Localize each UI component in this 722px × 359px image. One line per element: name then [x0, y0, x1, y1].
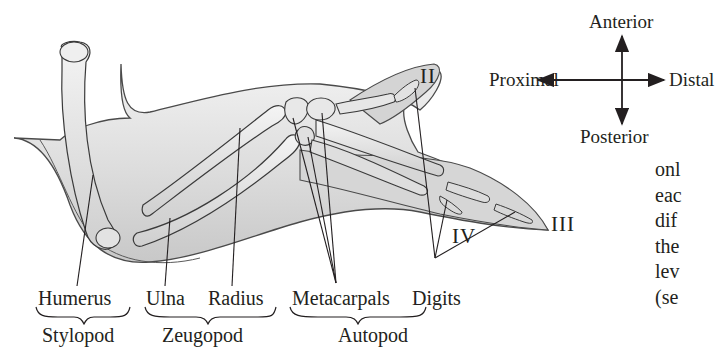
compass-label-anterior: Anterior — [589, 12, 653, 31]
compass-label-posterior: Posterior — [580, 127, 649, 146]
segment-brackets — [36, 307, 426, 324]
zeugopod-bracket — [145, 307, 276, 324]
label-digit-iii: III — [551, 214, 575, 235]
autopod-bracket — [290, 307, 426, 324]
limb-diagram: Humerus Ulna Radius Metacarpals Digits S… — [0, 0, 722, 359]
body-text-line: (se — [655, 285, 682, 311]
label-autopod: Autopod — [338, 325, 408, 345]
body-text-line: onl — [655, 157, 682, 183]
label-digits: Digits — [412, 288, 461, 308]
label-ulna: Ulna — [146, 288, 185, 308]
body-text-line: lev — [655, 259, 682, 285]
body-text-line: eac — [655, 183, 682, 209]
stylopod-bracket — [36, 307, 130, 324]
label-metacarpals: Metacarpals — [292, 288, 390, 308]
body-text-line: the — [655, 234, 682, 260]
label-stylopod: Stylopod — [42, 325, 114, 345]
label-humerus: Humerus — [38, 288, 111, 308]
label-radius: Radius — [208, 288, 264, 308]
body-text-line: dif — [655, 208, 682, 234]
label-zeugopod: Zeugopod — [162, 325, 243, 345]
body-text-fragment: onl eac dif the lev (se — [655, 157, 682, 310]
compass-label-distal: Distal — [669, 70, 714, 89]
label-digit-iv: IV — [452, 226, 476, 247]
compass-label-proximal: Proximal — [489, 70, 559, 89]
label-digit-ii: II — [420, 66, 436, 87]
